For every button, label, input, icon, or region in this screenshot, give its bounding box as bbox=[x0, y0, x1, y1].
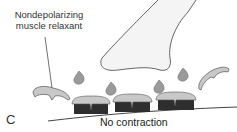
free-blocker-right bbox=[199, 67, 229, 90]
ach-drop bbox=[106, 82, 116, 95]
nerve-terminal bbox=[101, 0, 196, 70]
panel-letter: C bbox=[6, 114, 15, 125]
blocked-receptor bbox=[156, 92, 196, 110]
blocked-receptor bbox=[72, 96, 110, 114]
result-label: No contraction bbox=[100, 117, 168, 128]
ach-drop bbox=[178, 68, 188, 81]
free-blocker-left bbox=[33, 86, 70, 100]
ach-drop bbox=[74, 71, 84, 84]
drug-label-line2: muscle relaxant bbox=[4, 20, 94, 31]
ach-drop bbox=[154, 80, 164, 93]
blocked-receptor bbox=[113, 94, 152, 112]
label-leader-line bbox=[45, 37, 52, 88]
drug-label-line1: Nondepolarizing bbox=[4, 9, 94, 20]
drug-label: Nondepolarizing muscle relaxant bbox=[4, 9, 94, 31]
